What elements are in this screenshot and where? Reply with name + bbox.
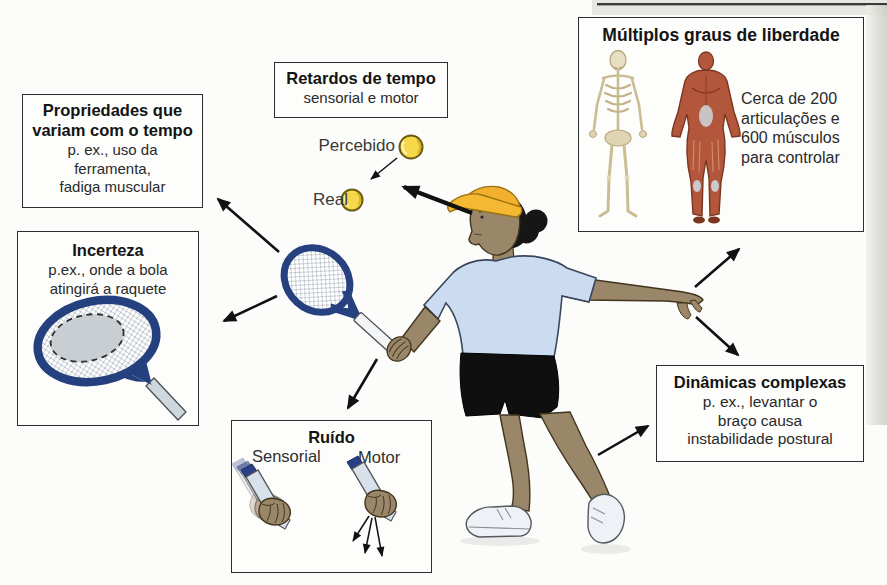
- box-body: p. ex., levantar o braço causa instabili…: [657, 393, 863, 449]
- noise-motor-label: Motor: [358, 448, 400, 467]
- arrow-leg-to-dynamics-box: [598, 426, 648, 455]
- box-title: Múltiplos graus de liberdade: [579, 25, 863, 45]
- player-hair: [502, 194, 539, 248]
- box-title: Propriedades que variam com o tempo: [23, 100, 202, 140]
- arrow-hand-to-dynamics-box: [696, 317, 738, 355]
- box-title: Incerteza: [18, 240, 198, 260]
- arrow-to-dof-box: [695, 249, 739, 287]
- player-racket: [271, 234, 420, 377]
- box-time-varying-properties: Propriedades que variam com o tempo p. e…: [22, 94, 203, 208]
- player-head: [469, 195, 520, 255]
- player-right-shoe: [588, 494, 624, 543]
- player-shirt: [424, 256, 596, 357]
- player-cap-crown: [461, 186, 520, 213]
- arrow-gaze-to-real-ball: [404, 187, 472, 213]
- player-cap-brim: [448, 194, 522, 217]
- arrow-to-properties-box: [218, 199, 279, 252]
- arrow-perceived-to-real: [371, 158, 397, 179]
- player-front-leg: [500, 415, 530, 511]
- perceived-ball-icon: [400, 136, 423, 159]
- box-body: p. ex., uso da ferramenta, fadiga muscul…: [23, 141, 202, 197]
- player-shorts: [460, 353, 559, 418]
- box-title: Ruído: [232, 427, 431, 447]
- box-body: sensorial e motor: [275, 89, 447, 108]
- box-noise: Ruído Sensorial Motor: [231, 420, 432, 573]
- figure-canvas: Propriedades que variam com o tempo p. e…: [0, 0, 887, 585]
- player-left-shoe: [466, 506, 531, 537]
- box-complex-dynamics: Dinâmicas complexas p. ex., levantar o b…: [656, 365, 864, 462]
- box-uncertainty: Incerteza p.ex., onde a bola atingirá a …: [17, 231, 199, 426]
- arrow-to-noise-box: [348, 359, 377, 408]
- noise-sensory-label: Sensorial: [252, 447, 321, 466]
- box-body: p.ex., onde a bola atingirá a raquete: [18, 261, 198, 298]
- perceived-ball-label: Percebido: [281, 136, 395, 156]
- player-left-arm: [585, 279, 703, 305]
- box-body: Cerca de 200 articulações e 600 músculos…: [741, 89, 863, 167]
- real-ball-label: Real: [272, 190, 348, 210]
- player-back-leg: [540, 412, 609, 503]
- player-grip-hand: [382, 332, 416, 366]
- arrow-to-uncertainty-box: [224, 296, 277, 321]
- box-title: Dinâmicas complexas: [657, 372, 863, 392]
- box-title: Retardos de tempo: [275, 68, 447, 88]
- player-right-forearm: [401, 307, 440, 352]
- box-time-delays: Retardos de tempo sensorial e motor: [274, 62, 448, 118]
- player-hair-bun: [525, 210, 548, 233]
- box-degrees-of-freedom: Múltiplos graus de liberdade Cerca de 20…: [578, 17, 864, 232]
